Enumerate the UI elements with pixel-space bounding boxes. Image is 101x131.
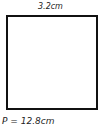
square-shape xyxy=(6,15,98,110)
side-length-label: 3.2cm xyxy=(38,2,63,11)
perimeter-label: P = 12.8cm xyxy=(2,116,54,126)
